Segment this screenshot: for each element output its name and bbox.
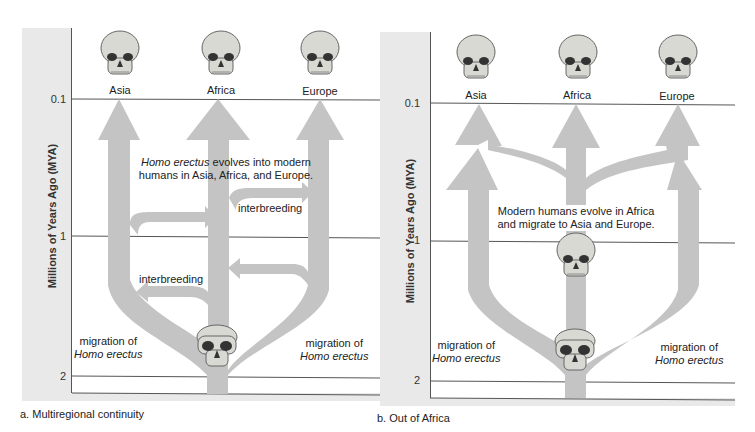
region-label-africa: Africa [537,89,617,101]
out-of-africa-note: Modern humans evolve in Africa and migra… [496,205,656,231]
time-line-0.1 [430,103,735,105]
migration-label-right: migration of Homo erectus [655,341,723,367]
region-label-europe: Europe [637,90,717,102]
caption-b: b. Out of Africa [377,412,450,424]
panel-out-of-africa: 0.1 1 2 Millions of Years Ago (MYA) Asia… [0,0,755,432]
migration-label-left: migration of Homo erectus [432,339,500,365]
y-axis-label: Millions of Years Ago (MYA) [404,151,416,311]
tick-2: 2 [396,374,420,386]
time-line-bottom [430,398,735,400]
tick-0.1: 0.1 [396,97,420,109]
region-label-asia: Asia [436,89,516,101]
